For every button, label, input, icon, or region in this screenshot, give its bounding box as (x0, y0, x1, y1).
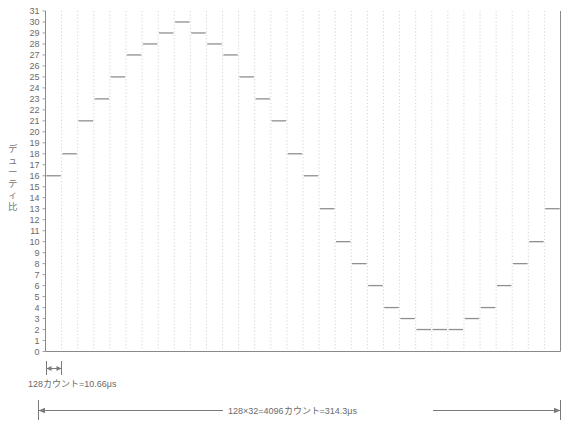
y-tick-label: 9 (34, 248, 39, 258)
y-tick-label: 10 (29, 237, 39, 247)
y-tick-label: 6 (34, 281, 39, 291)
y-tick-label: 25 (29, 72, 39, 82)
y-axis-label-char: ィ (8, 189, 18, 200)
y-tick-label: 14 (29, 193, 39, 203)
y-axis-label-char: テ (8, 178, 18, 189)
y-tick-label: 31 (29, 6, 39, 16)
y-tick-label: 15 (29, 182, 39, 192)
y-tick-label: 21 (29, 116, 39, 126)
y-tick-label: 2 (34, 325, 39, 335)
y-tick-label: 0 (34, 347, 39, 357)
y-tick-label: 8 (34, 259, 39, 269)
y-axis-label-char: ュ (8, 155, 18, 166)
y-tick-label: 18 (29, 149, 39, 159)
total-span-label: 128×32=4096カウント=314.3μs (228, 406, 358, 416)
y-axis-label-char: ー (8, 166, 18, 177)
plot-svg: 0123456789101112131415161718192021222324… (0, 0, 567, 427)
y-tick-label: 13 (29, 204, 39, 214)
y-tick-label: 28 (29, 39, 39, 49)
y-tick-label: 24 (29, 83, 39, 93)
y-tick-label: 17 (29, 160, 39, 170)
y-tick-label: 23 (29, 94, 39, 104)
y-tick-label: 27 (29, 50, 39, 60)
y-tick-label: 4 (34, 303, 39, 313)
y-tick-label: 3 (34, 314, 39, 324)
figure-background (0, 0, 567, 427)
y-tick-label: 16 (29, 171, 39, 181)
y-axis-label-char: 比 (8, 201, 18, 212)
y-tick-label: 29 (29, 28, 39, 38)
y-tick-label: 12 (29, 215, 39, 225)
y-tick-label: 22 (29, 105, 39, 115)
y-tick-label: 30 (29, 17, 39, 27)
y-tick-label: 26 (29, 61, 39, 71)
y-tick-label: 11 (30, 226, 39, 236)
y-tick-label: 5 (34, 292, 39, 302)
y-tick-label: 7 (34, 270, 39, 280)
y-axis-label: デューティ比 (8, 143, 18, 212)
y-axis-label-char: デ (8, 143, 18, 154)
duty-ratio-staircase-figure: 0123456789101112131415161718192021222324… (0, 0, 567, 427)
y-tick-label: 19 (29, 138, 39, 148)
step-marker-label: 128カウント=10.66μs (28, 379, 117, 389)
y-tick-label: 20 (29, 127, 39, 137)
y-tick-label: 1 (34, 336, 39, 346)
